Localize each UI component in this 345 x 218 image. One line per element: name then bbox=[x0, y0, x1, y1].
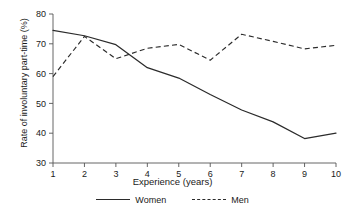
chart-container: Rate of involuntary part-time (%) 304050… bbox=[0, 0, 345, 218]
legend-item-men: Men bbox=[192, 195, 249, 205]
y-tick-label: 30 bbox=[36, 158, 46, 168]
y-tick-group: 304050607080 bbox=[36, 9, 53, 168]
legend-item-women: Women bbox=[96, 195, 166, 205]
series-line-men bbox=[53, 34, 336, 76]
y-tick-label: 60 bbox=[36, 69, 46, 79]
legend-label-men: Men bbox=[231, 195, 249, 205]
legend-label-women: Women bbox=[135, 195, 166, 205]
legend-line-solid-icon bbox=[96, 199, 130, 201]
y-tick-label: 40 bbox=[36, 128, 46, 138]
y-tick-label: 50 bbox=[36, 99, 46, 109]
y-tick-label: 80 bbox=[36, 9, 46, 19]
chart-legend: Women Men bbox=[0, 195, 345, 205]
axes bbox=[53, 14, 336, 163]
series-group bbox=[53, 30, 336, 138]
legend-line-dashed-icon bbox=[192, 199, 226, 201]
y-tick-label: 70 bbox=[36, 39, 46, 49]
x-axis-title: Experience (years) bbox=[0, 176, 345, 187]
